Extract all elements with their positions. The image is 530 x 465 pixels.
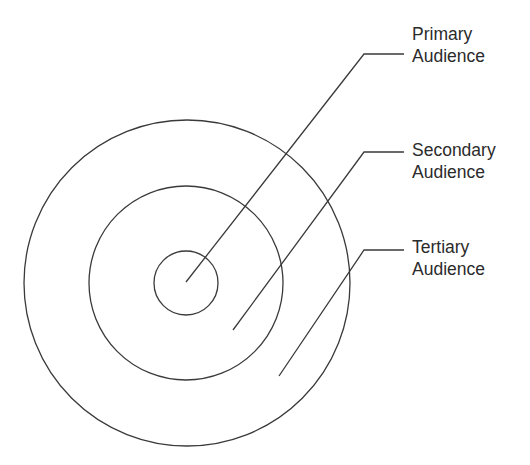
label-line: Primary (412, 23, 485, 45)
primary-ring (154, 251, 218, 315)
primary-audience-label: Primary Audience (412, 23, 485, 67)
label-line: Audience (412, 258, 485, 280)
primary-leader-line (186, 54, 404, 282)
secondary-leader-line (233, 152, 404, 330)
tertiary-leader-line (279, 250, 404, 376)
secondary-audience-label: Secondary Audience (412, 139, 496, 183)
label-line: Audience (412, 45, 485, 67)
audience-rings-diagram (0, 0, 530, 465)
tertiary-ring (24, 120, 350, 446)
label-line: Tertiary (412, 236, 485, 258)
label-line: Audience (412, 161, 496, 183)
label-line: Secondary (412, 139, 496, 161)
tertiary-audience-label: Tertiary Audience (412, 236, 485, 280)
secondary-ring (89, 186, 283, 380)
